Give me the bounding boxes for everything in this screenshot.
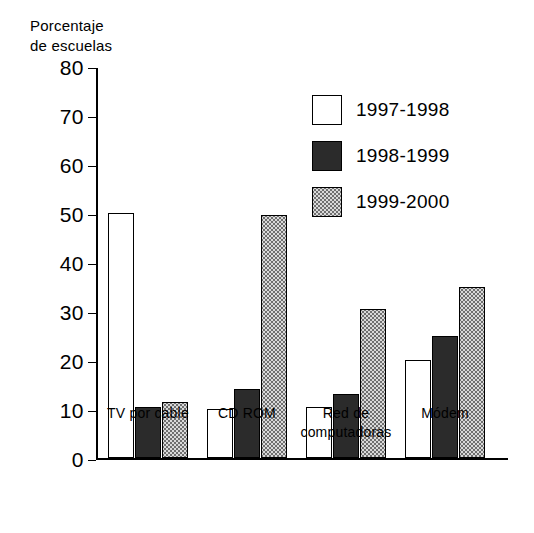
bar	[432, 336, 458, 459]
x-axis-line	[96, 458, 508, 460]
bar	[234, 389, 260, 458]
y-tick-label: 70	[60, 105, 84, 129]
legend-item: 1997-1998	[312, 95, 450, 125]
y-tick-label: 80	[60, 56, 84, 80]
y-tick-label: 50	[60, 203, 84, 227]
legend-label: 1997-1998	[356, 99, 450, 121]
y-tick-label: 60	[60, 154, 84, 178]
y-tick-mark	[88, 313, 96, 314]
bar	[459, 287, 485, 459]
legend-swatch	[312, 141, 342, 171]
legend-item: 1998-1999	[312, 141, 450, 171]
legend-label: 1999-2000	[356, 191, 450, 213]
legend: 1997-19981998-19991999-2000	[312, 95, 450, 233]
y-tick-label: 0	[72, 448, 84, 472]
y-tick-mark	[88, 117, 96, 118]
legend-swatch	[312, 95, 342, 125]
y-tick-label: 40	[60, 252, 84, 276]
y-tick-mark	[88, 68, 96, 69]
y-tick-mark	[88, 460, 96, 461]
y-tick-label: 30	[60, 301, 84, 325]
bar-chart: Porcentaje de escuelas 01020304050607080…	[0, 0, 534, 533]
legend-swatch	[312, 187, 342, 217]
legend-label: 1998-1999	[356, 145, 450, 167]
legend-item: 1999-2000	[312, 187, 450, 217]
y-axis-title: Porcentaje de escuelas	[30, 16, 112, 56]
y-tick-mark	[88, 264, 96, 265]
y-tick-mark	[88, 166, 96, 167]
y-axis-line	[96, 68, 98, 460]
y-tick-label: 20	[60, 350, 84, 374]
y-tick-mark	[88, 362, 96, 363]
y-tick-mark	[88, 215, 96, 216]
x-category-label: Módem	[375, 404, 515, 423]
